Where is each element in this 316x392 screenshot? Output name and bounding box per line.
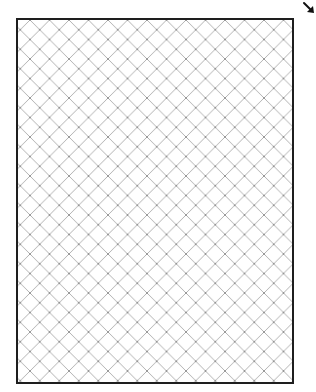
crosshatch-pattern: [18, 20, 292, 382]
arrow-down-right-icon: [302, 1, 316, 15]
crosshatch-frame: [16, 18, 294, 384]
